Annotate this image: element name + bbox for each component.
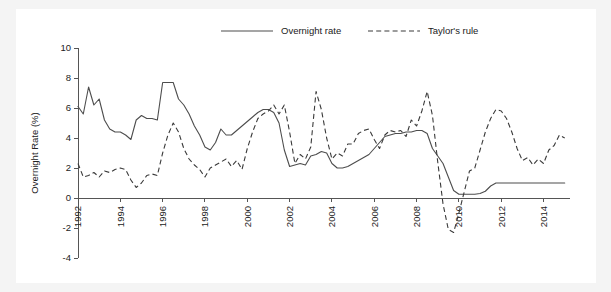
y-tick-label: -4 — [63, 252, 71, 263]
x-tick-label: 2002 — [284, 206, 295, 227]
x-tick-label: 2000 — [242, 206, 253, 227]
y-tick-label: 6 — [66, 102, 71, 113]
x-tick-label: 2014 — [538, 206, 549, 227]
legend-label-2: Taylor's rule — [428, 25, 478, 36]
x-tick-label: 1998 — [199, 206, 210, 227]
plot-area: -4-2024681019921994199619982000200220042… — [29, 25, 570, 264]
x-tick-label: 1994 — [115, 206, 126, 227]
y-tick-label: 4 — [66, 132, 71, 143]
overnight-rate-taylor-rule-chart: -4-2024681019921994199619982000200220042… — [16, 9, 596, 283]
y-axis-title: Overnight Rate (%) — [29, 112, 40, 193]
y-tick-label: 8 — [66, 72, 71, 83]
x-tick-label: 2004 — [326, 206, 337, 227]
x-tick-label: 2010 — [453, 206, 464, 227]
x-tick-label: 1992 — [72, 206, 83, 227]
x-tick-label: 2008 — [411, 206, 422, 227]
y-tick-label: 0 — [66, 192, 71, 203]
series-line-taylor-s-rule — [78, 92, 565, 233]
y-tick-label: 2 — [66, 162, 71, 173]
x-tick-label: 2012 — [496, 206, 507, 227]
series-line-overnight-rate — [78, 83, 565, 195]
figure-panel: -4-2024681019921994199619982000200220042… — [16, 9, 596, 283]
x-tick-label: 1996 — [157, 206, 168, 227]
y-tick-label: 10 — [60, 42, 71, 53]
y-tick-label: -2 — [63, 222, 71, 233]
x-tick-label: 2006 — [369, 206, 380, 227]
legend-label-1: Overnight rate — [281, 25, 341, 36]
